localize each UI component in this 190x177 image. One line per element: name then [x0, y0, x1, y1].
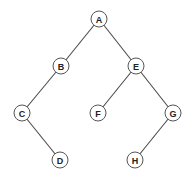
binary-tree-diagram: ABECFGDH: [0, 0, 190, 177]
node-label: F: [95, 109, 101, 119]
edge-b-c: [22, 66, 61, 113]
node-label: C: [19, 109, 26, 119]
node-label: E: [133, 62, 139, 72]
edge-e-g: [136, 66, 173, 113]
tree-nodes: ABECFGDH: [14, 11, 181, 168]
tree-node-d: D: [52, 152, 68, 168]
edge-a-b: [61, 19, 99, 66]
tree-node-b: B: [53, 58, 69, 74]
node-label: H: [132, 156, 139, 166]
tree-node-a: A: [91, 11, 107, 27]
edge-g-h: [135, 113, 173, 160]
tree-node-h: H: [127, 152, 143, 168]
tree-node-g: G: [165, 105, 181, 121]
edge-e-f: [98, 66, 136, 113]
edge-a-e: [99, 19, 136, 66]
node-label: G: [169, 109, 176, 119]
tree-node-f: F: [90, 105, 106, 121]
node-label: B: [58, 62, 65, 72]
edge-c-d: [22, 113, 60, 160]
tree-edges: [22, 19, 173, 160]
tree-node-c: C: [14, 105, 30, 121]
node-label: D: [57, 156, 64, 166]
tree-node-e: E: [128, 58, 144, 74]
node-label: A: [96, 15, 103, 25]
